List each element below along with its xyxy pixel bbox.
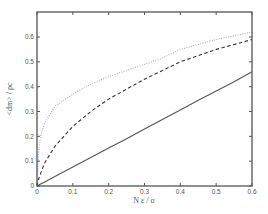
y-tick-label: 0.1	[25, 157, 34, 164]
y-tick-label: 0.6	[25, 33, 34, 40]
x-tick-label: 0	[35, 188, 39, 195]
y-axis-label: <dm> / ρc	[5, 82, 14, 115]
x-tick-label: 0.2	[104, 188, 113, 195]
x-tick-label: 0.1	[68, 188, 77, 195]
chart-background	[0, 0, 268, 214]
x-tick-label: 0.6	[247, 188, 256, 195]
y-tick-label: 0.2	[25, 133, 34, 140]
line-chart: 00.10.20.30.40.50.6 00.10.20.30.40.50.6 …	[0, 0, 268, 214]
y-tick-label: 0.5	[25, 58, 34, 65]
x-tick-label: 0.3	[140, 188, 149, 195]
y-tick-label: 0.4	[25, 83, 34, 90]
y-tick-label: 0.3	[25, 108, 34, 115]
x-axis-label: N ε / σ	[133, 196, 155, 205]
y-tick-label: 0	[30, 182, 34, 189]
x-tick-label: 0.5	[212, 188, 221, 195]
x-tick-label: 0.4	[176, 188, 185, 195]
